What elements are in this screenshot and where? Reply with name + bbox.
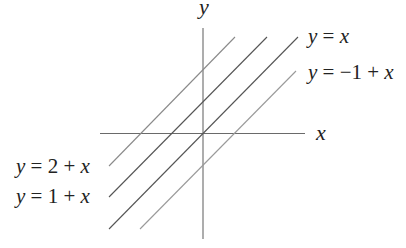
label-y-eq-2-plus-x: y = 2 + x	[14, 154, 91, 178]
line-y-eq-1-plus-x	[109, 37, 267, 197]
x-axis-label: x	[315, 120, 326, 145]
line-y-eq-2-plus-x	[109, 37, 235, 166]
label-y-eq-1-plus-x: y = 1 + x	[14, 184, 91, 208]
line-y-eq-minus1-plus-x	[140, 71, 296, 229]
label-y-eq-x: y = x	[306, 24, 350, 48]
y-axis-label: y	[197, 0, 209, 19]
diagram-canvas: y x y = x y = −1 + x y = 2 + x y = 1 + x	[0, 0, 406, 248]
label-y-eq-minus1-plus-x: y = −1 + x	[306, 60, 394, 84]
